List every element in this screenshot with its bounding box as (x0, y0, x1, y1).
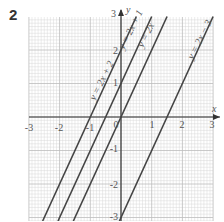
label-y-2x-plus-2: y = 2x + 2 (87, 59, 116, 103)
x-tick--1: -1 (86, 122, 94, 133)
x-tick-2: 2 (180, 119, 185, 130)
x-tick-1: 1 (150, 119, 155, 130)
y-tick--3: -3 (110, 211, 118, 221)
y-tick--2: -2 (110, 179, 118, 190)
x-tick-3: 3 (210, 119, 215, 130)
y-tick-3: 3 (111, 8, 116, 19)
y-tick-1: 1 (113, 77, 118, 88)
x-axis-label: x (211, 103, 217, 114)
plot-lines (43, 17, 213, 222)
y-axis-label: y (125, 4, 131, 15)
x-tick--2: -2 (55, 122, 63, 133)
y-tick--1: -1 (110, 143, 118, 154)
origin-label: 0 (114, 119, 119, 130)
linear-graph: -3 -2 -1 0 1 2 3 3 2 1 -1 -2 -3 x y y = … (0, 0, 224, 221)
x-tick--3: -3 (25, 122, 33, 133)
y-axis-arrow-icon (118, 9, 124, 16)
